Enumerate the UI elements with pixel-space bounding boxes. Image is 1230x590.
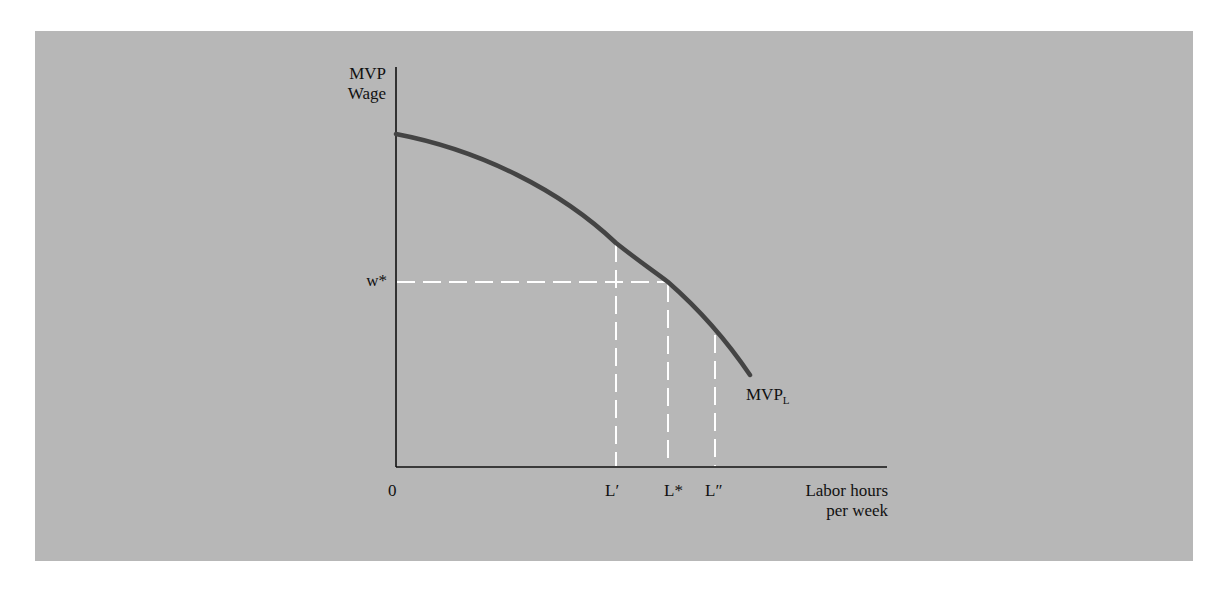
mvp-l-label-main: MVP xyxy=(746,385,783,404)
y-axis-label-line2: Wage xyxy=(300,84,386,104)
x-axis-label-line2: per week xyxy=(740,501,888,521)
l-star-label: L* xyxy=(664,481,683,501)
mvp-l-label-sub: L xyxy=(783,394,790,406)
origin-label: 0 xyxy=(388,481,397,501)
y-axis-label-line1: MVP xyxy=(300,64,386,84)
x-axis-label: Labor hours per week xyxy=(740,481,888,521)
mvp-l-label: MVPL xyxy=(746,385,790,410)
l-prime-label: L′ xyxy=(605,481,619,501)
x-axis-label-line1: Labor hours xyxy=(740,481,888,501)
mvp-chart xyxy=(0,0,1230,590)
mvp-l-curve xyxy=(396,134,750,375)
y-axis-label: MVP Wage xyxy=(300,64,386,104)
l-double-prime-label: L″ xyxy=(705,481,722,501)
w-star-label: w* xyxy=(340,271,387,291)
